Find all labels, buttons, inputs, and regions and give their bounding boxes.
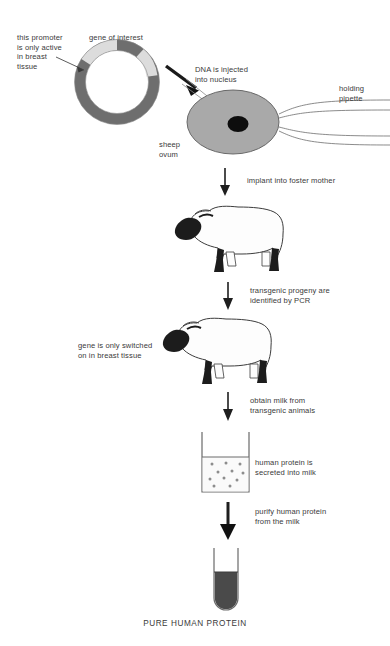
plasmid-ring <box>75 40 160 125</box>
foster-mother-sheep <box>175 206 283 272</box>
arrow-pcr <box>223 282 233 310</box>
diagram-canvas <box>0 0 390 646</box>
holding-pipette <box>279 100 390 145</box>
purify-label: purify human protein from the milk <box>255 507 361 526</box>
implant-label: implant into foster mother <box>247 176 377 186</box>
ovum-nucleus <box>228 116 249 132</box>
protein-test-tube <box>214 548 238 610</box>
gene-of-interest-label: gene of interest <box>89 33 179 43</box>
arrow-obtain-milk <box>223 392 233 421</box>
pcr-label: transgenic progeny are identified by PCR <box>250 286 368 305</box>
obtain-milk-label: obtain milk from transgenic animals <box>250 396 350 415</box>
milk-beaker <box>202 432 249 492</box>
dna-injected-label: DNA is injected into nucleus <box>195 65 287 84</box>
promoter-label: this promoter is only active in breast t… <box>17 33 83 71</box>
secreted-label: human protein is secreted into milk <box>255 458 355 477</box>
page-title: PURE HUMAN PROTEIN <box>0 619 390 628</box>
breast-tissue-label: gene is only switched on in breast tissu… <box>78 341 182 360</box>
arrow-implant <box>220 168 230 196</box>
holding-pipette-label: holding pipette <box>339 84 387 103</box>
sheep-ovum <box>187 90 279 154</box>
arrow-purify <box>220 502 236 540</box>
sheep-ovum-label: sheep ovum <box>159 140 199 159</box>
